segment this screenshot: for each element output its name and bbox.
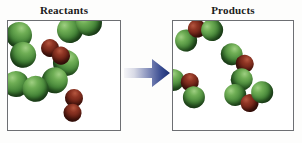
products-title: Products [172, 4, 294, 16]
reaction-arrow-icon [124, 58, 170, 88]
products-panel [172, 20, 294, 131]
reactants-panel [7, 20, 121, 131]
red-atom [60, 100, 85, 125]
reactants-title: Reactants [7, 4, 121, 16]
arrow-shape [124, 59, 170, 87]
reaction-diagram: Reactants Products [0, 0, 302, 143]
reaction-arrow-svg [124, 58, 170, 88]
green-atom [198, 20, 226, 44]
